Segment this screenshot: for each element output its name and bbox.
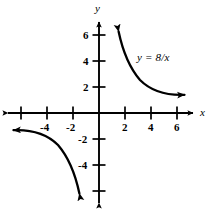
equation-label: y = 8/x (137, 52, 170, 63)
y-tick-label-pos6: 6 (83, 30, 89, 41)
x-tick-label-pos6: 6 (174, 122, 180, 133)
x-tick-label-neg2: -2 (66, 122, 75, 133)
hyperbola-branch-negative (14, 130, 80, 193)
y-tick-label-pos4: 4 (83, 56, 89, 67)
x-tick-label-pos2: 2 (122, 122, 128, 133)
y-axis-label: y (95, 3, 100, 14)
y-tick-label-pos2: 2 (83, 82, 89, 93)
x-tick-label-neg4: -4 (40, 122, 49, 133)
hyperbola-branch-positive (119, 32, 185, 95)
x-tick-label-pos4: 4 (148, 122, 154, 133)
hyperbola-graph-figure: x y -4 -2 2 4 6 6 4 2 -2 -4 y = 8/x (0, 0, 211, 212)
y-tick-label-neg4: -4 (78, 160, 87, 171)
y-tick-label-neg2: -2 (78, 134, 87, 145)
x-axis-label: x (200, 107, 205, 118)
coordinate-plane-svg (0, 0, 211, 212)
